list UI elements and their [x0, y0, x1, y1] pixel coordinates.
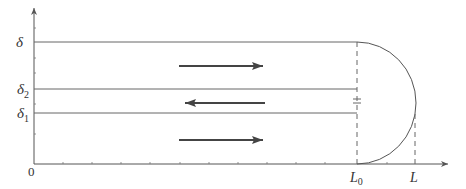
- delta-label: δ: [16, 34, 24, 50]
- delta1-label: δ1: [17, 105, 29, 124]
- y-axis: [34, 8, 36, 164]
- x-axis: [34, 162, 448, 164]
- curved-boundary: [357, 42, 416, 164]
- L0-label: L0: [349, 170, 363, 187]
- origin-label: 0: [28, 164, 35, 179]
- flow-diagram: δ δ2 δ1 0 L0 L: [0, 0, 466, 189]
- delta2-label: δ2: [17, 81, 29, 100]
- diagram-canvas: δ δ2 δ1 0 L0 L: [0, 0, 466, 189]
- L-label: L: [409, 170, 418, 185]
